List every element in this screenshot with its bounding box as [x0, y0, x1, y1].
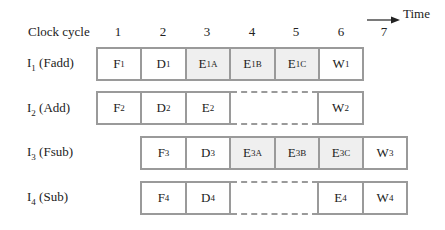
- row-label-op: (Add): [36, 100, 70, 115]
- cycle-number-2: 2: [141, 24, 185, 40]
- row-label-op: (Sub): [36, 189, 68, 204]
- stage-cell-w3: W3: [362, 136, 408, 170]
- stage-cell-e2: E2: [185, 91, 231, 125]
- cycle-number-7: 7: [362, 24, 406, 40]
- stage-cell-f1: F1: [96, 47, 142, 81]
- stage-cell-f4: F4: [140, 181, 187, 215]
- row-label-i3: I3 (Fsub): [27, 144, 73, 162]
- row-label-i2: I2 (Add): [27, 100, 70, 118]
- stage-cell-d1: D1: [140, 47, 187, 81]
- stage-cell-f2: F2: [96, 91, 142, 125]
- stage-cell-e1b: E1B: [229, 47, 276, 81]
- right-arrow-icon: [367, 15, 401, 25]
- stage-cell-f3: F3: [140, 136, 187, 170]
- cycle-number-6: 6: [319, 24, 363, 40]
- stall-gap-row4: [231, 181, 318, 215]
- cycle-number-1: 1: [96, 24, 140, 40]
- cycle-number-4: 4: [230, 24, 274, 40]
- stage-cell-e3a: E3A: [229, 136, 276, 170]
- stage-cell-e4: E4: [317, 181, 364, 215]
- row-label-op: (Fsub): [36, 144, 73, 159]
- stall-gap-row2: [231, 91, 318, 125]
- clock-cycle-label: Clock cycle: [28, 24, 90, 40]
- stage-cell-w1: W1: [318, 47, 364, 81]
- stage-cell-e3c: E3C: [318, 136, 364, 170]
- row-label-i4: I4 (Sub): [27, 189, 68, 207]
- stage-cell-d4: D4: [185, 181, 231, 215]
- stage-cell-d3: D3: [185, 136, 231, 170]
- time-label: Time: [403, 6, 430, 22]
- stage-cell-w4: W4: [362, 181, 408, 215]
- cycle-number-3: 3: [185, 24, 229, 40]
- row-label-op: (Fadd): [36, 55, 74, 70]
- row-label-i1: I1 (Fadd): [27, 55, 74, 73]
- stage-cell-w2: W2: [317, 91, 364, 125]
- stage-cell-d2: D2: [140, 91, 187, 125]
- cycle-number-5: 5: [274, 24, 318, 40]
- stage-cell-e3b: E3B: [274, 136, 320, 170]
- stage-cell-e1a: E1A: [185, 47, 231, 81]
- stage-cell-e1c: E1C: [274, 47, 320, 81]
